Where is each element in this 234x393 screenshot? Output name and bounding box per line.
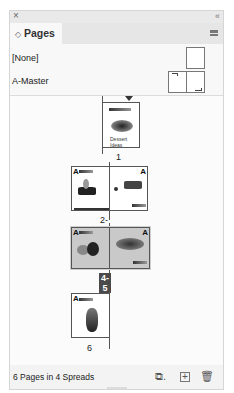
tab-sort-arrows-icon: ◇ <box>15 30 21 39</box>
master-label: A-Master <box>12 76 49 86</box>
master-prefix: A <box>142 229 148 237</box>
master-thumbnail[interactable] <box>186 47 205 69</box>
master-spread-thumbnail[interactable] <box>168 71 205 93</box>
document-pages-area: Dessert Ideas 1 A A 2-3 <box>10 96 223 367</box>
page-thumbnail-6[interactable]: A <box>71 293 110 338</box>
page-number-label-selected: 4-5 <box>99 273 111 293</box>
page-number-label: 6 <box>87 343 92 353</box>
tab-row: ◇Pages <box>10 23 223 44</box>
pages-panel: × ‹‹ ◇Pages [None] A-Master Dessert <box>9 10 224 390</box>
page-thumbnail-4[interactable]: A <box>71 227 110 269</box>
page-caption: Dessert Ideas <box>110 136 139 148</box>
page-thumbnail-1[interactable]: Dessert Ideas <box>102 102 140 148</box>
master-prefix: A <box>73 168 79 176</box>
new-page-icon[interactable]: + <box>180 372 190 382</box>
page-thumbnail-2[interactable]: A <box>71 166 110 211</box>
master-label: [None] <box>12 53 39 63</box>
page-count-status: 6 Pages in 4 Spreads <box>13 372 94 382</box>
master-prefix: A <box>140 168 146 176</box>
master-item-a-master[interactable]: A-Master <box>10 71 223 95</box>
page-thumbnail-3[interactable]: A <box>109 166 148 211</box>
start-marker-icon <box>125 96 133 101</box>
master-prefix: A <box>73 295 79 303</box>
edit-page-size-icon[interactable]: ⧉. <box>155 370 166 382</box>
tab-label: Pages <box>24 27 55 39</box>
page-number-label: 1 <box>116 152 121 162</box>
tab-pages[interactable]: ◇Pages <box>10 23 62 45</box>
panel-menu-icon[interactable] <box>210 30 218 36</box>
close-icon[interactable]: × <box>13 10 19 22</box>
delete-page-icon[interactable]: 🗑 <box>200 370 214 382</box>
master-prefix: A <box>73 229 79 237</box>
collapse-panel-icon[interactable]: ‹‹ <box>215 10 219 22</box>
resize-grip[interactable] <box>107 387 127 389</box>
page-thumbnail-5[interactable]: A <box>109 227 150 269</box>
panel-footer: 6 Pages in 4 Spreads ⧉. + 🗑 <box>10 365 223 389</box>
master-item-none[interactable]: [None] <box>10 48 223 72</box>
masters-section: [None] A-Master <box>10 44 223 96</box>
